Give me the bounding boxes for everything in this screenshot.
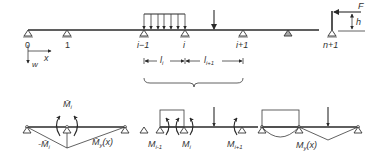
w-axis-label: w [32,61,38,69]
support-i-plus-1 [238,30,248,37]
support-0 [23,30,33,37]
support-n [284,30,292,36]
support-label-0: 0 [25,41,30,50]
span-label-i-plus-1: li+1 [204,56,214,66]
support-label-i: i [183,41,185,50]
unit-moment-function-label: M̄y(x) [92,138,113,148]
support-label-i-minus-1: i−1 [137,41,149,50]
span-label-i: li [160,56,163,66]
support-i-minus-1 [139,30,149,37]
load-moment-function-label: My(x) [296,141,317,151]
support-label-n-plus-1: n+1 [323,41,338,50]
moment-arrow-left [57,116,61,136]
support-1 [62,30,72,37]
load-moment-diagram [258,107,362,140]
support-label-1: 1 [65,41,70,50]
support-n-plus-1 [327,30,337,37]
top-beam [23,10,365,87]
force-label: F [358,2,364,11]
distributed-load-block [160,110,184,127]
brace [144,78,243,87]
redundant-moments-diagram [140,107,258,135]
moment-arrow-right [74,116,78,136]
height-label: h [356,18,361,27]
x-axis-label: x [44,54,49,63]
support-i [180,30,190,37]
unit-moment-label: M̄i [63,100,72,110]
moment-label-i: Mi [182,140,191,150]
support-label-i-plus-1: i+1 [236,41,248,50]
span-dimensions [144,58,243,64]
moment-label-i-minus-1: Mi-1 [148,140,162,150]
neg-unit-moment-label: -M̄i [38,140,50,150]
distributed-load [144,14,185,29]
moment-label-i-plus-1: Mi+1 [227,140,243,150]
